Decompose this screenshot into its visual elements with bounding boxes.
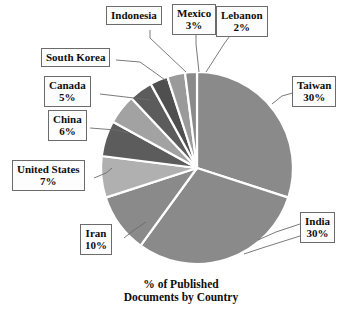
pie-slice-group [101, 72, 293, 264]
callout-taiwan-value: 30% [297, 91, 331, 103]
callout-iran-label: Iran [85, 227, 107, 239]
callout-south-korea: South Korea [41, 48, 110, 67]
callout-united-states-label: United States [17, 163, 80, 175]
chart-caption: % of Published Documents by Country [124, 278, 238, 304]
callout-canada-label: Canada [49, 79, 86, 91]
callout-mexico: Mexico 3% [172, 4, 216, 35]
callout-mexico-value: 3% [177, 19, 211, 31]
callout-china: China 6% [48, 110, 87, 141]
callout-taiwan: Taiwan 30% [292, 76, 336, 107]
pie-chart-figure: Indonesia Mexico 3% Lebanon 2% South Kor… [0, 0, 363, 320]
callout-mexico-label: Mexico [177, 7, 211, 19]
callout-indonesia: Indonesia [106, 6, 162, 25]
callout-india-value: 30% [305, 227, 330, 239]
callout-india: India 30% [300, 212, 335, 243]
callout-china-value: 6% [53, 125, 82, 137]
callout-united-states: United States 7% [12, 160, 85, 191]
callout-canada-value: 5% [49, 91, 86, 103]
callout-south-korea-label: South Korea [46, 51, 105, 63]
callout-indonesia-label: Indonesia [111, 9, 157, 21]
callout-lebanon-label: Lebanon [221, 9, 263, 21]
callout-united-states-value: 7% [17, 175, 80, 187]
callout-india-label: India [305, 215, 330, 227]
chart-caption-line-1: % of Published [124, 278, 238, 291]
callout-iran: Iran 10% [80, 224, 112, 255]
callout-china-label: China [53, 113, 82, 125]
chart-caption-line-2: Documents by Country [124, 291, 238, 304]
callout-taiwan-label: Taiwan [297, 79, 331, 91]
callout-lebanon: Lebanon 2% [216, 6, 268, 37]
callout-lebanon-value: 2% [221, 21, 263, 33]
callout-canada: Canada 5% [44, 76, 91, 107]
callout-iran-value: 10% [85, 239, 107, 251]
